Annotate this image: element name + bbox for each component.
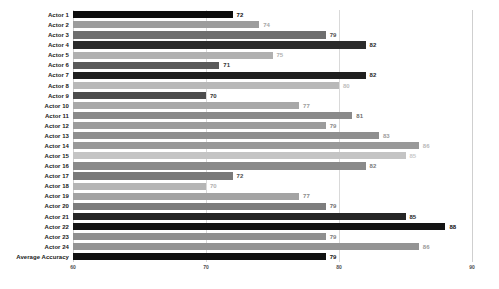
bar[interactable] — [73, 11, 233, 18]
category-label: Actor 15 — [0, 151, 69, 161]
bar-row: Actor 1383 — [0, 131, 499, 141]
bar-track: 85 — [73, 151, 499, 161]
x-tick-label: 90 — [469, 264, 475, 270]
bar-row: Actor 2079 — [0, 201, 499, 211]
bar-track: 77 — [73, 101, 499, 111]
bar-track: 79 — [73, 252, 499, 262]
x-tick-label: 70 — [203, 264, 209, 270]
bar-value-label: 81 — [356, 111, 363, 121]
bar[interactable] — [73, 152, 406, 159]
bar-track: 85 — [73, 212, 499, 222]
category-label: Actor 19 — [0, 191, 69, 201]
bar[interactable] — [73, 213, 406, 220]
bar-row: Actor 1977 — [0, 191, 499, 201]
bar[interactable] — [73, 203, 326, 210]
bar-value-label: 85 — [410, 151, 417, 161]
x-axis: 60708090 — [73, 264, 472, 278]
bar[interactable] — [73, 52, 273, 59]
category-label: Actor 3 — [0, 30, 69, 40]
bar[interactable] — [73, 21, 259, 28]
category-label: Actor 23 — [0, 232, 69, 242]
bar[interactable] — [73, 172, 233, 179]
bar[interactable] — [73, 62, 219, 69]
category-label: Actor 20 — [0, 201, 69, 211]
bar-value-label: 77 — [303, 191, 310, 201]
bar[interactable] — [73, 31, 326, 38]
category-label: Actor 7 — [0, 70, 69, 80]
bar-row: Actor 2379 — [0, 232, 499, 242]
bar-row: Actor 2185 — [0, 212, 499, 222]
category-label: Actor 18 — [0, 181, 69, 191]
category-label: Actor 16 — [0, 161, 69, 171]
bar-row: Actor 2288 — [0, 222, 499, 232]
category-label: Actor 8 — [0, 81, 69, 91]
bar[interactable] — [73, 233, 326, 240]
bar[interactable] — [73, 142, 419, 149]
bar-track: 83 — [73, 131, 499, 141]
bar-row: Actor 1279 — [0, 121, 499, 131]
bar-track: 88 — [73, 222, 499, 232]
bar-value-label: 86 — [423, 141, 430, 151]
bar-row: Actor 575 — [0, 50, 499, 60]
bar-track: 79 — [73, 201, 499, 211]
bar-track: 70 — [73, 181, 499, 191]
bar-value-label: 79 — [330, 232, 337, 242]
category-label: Actor 14 — [0, 141, 69, 151]
bar-value-label: 86 — [423, 242, 430, 252]
bar-row: Actor 1585 — [0, 151, 499, 161]
bar[interactable] — [73, 183, 206, 190]
bar[interactable] — [73, 72, 366, 79]
bar[interactable] — [73, 92, 206, 99]
bar[interactable] — [73, 82, 339, 89]
bar-track: 75 — [73, 50, 499, 60]
bar-row: Actor 1682 — [0, 161, 499, 171]
bar-value-label: 79 — [330, 252, 337, 262]
bar-track: 72 — [73, 10, 499, 20]
bar[interactable] — [73, 223, 445, 230]
bar-row: Actor 1077 — [0, 101, 499, 111]
category-label: Actor 5 — [0, 50, 69, 60]
bar-row: Actor 482 — [0, 40, 499, 50]
bar-track: 77 — [73, 191, 499, 201]
category-label: Actor 11 — [0, 111, 69, 121]
bar-track: 82 — [73, 161, 499, 171]
bar-value-label: 82 — [370, 40, 377, 50]
bar-value-label: 72 — [237, 171, 244, 181]
bar-track: 72 — [73, 171, 499, 181]
category-label: Actor 2 — [0, 20, 69, 30]
bar[interactable] — [73, 193, 299, 200]
bar-row: Actor 274 — [0, 20, 499, 30]
bar-value-label: 82 — [370, 161, 377, 171]
bar-value-label: 70 — [210, 181, 217, 191]
bar-value-label: 71 — [223, 60, 230, 70]
bar[interactable] — [73, 243, 419, 250]
category-label: Actor 10 — [0, 101, 69, 111]
bar-track: 79 — [73, 121, 499, 131]
category-label: Actor 4 — [0, 40, 69, 50]
category-label: Average Accuracy — [0, 252, 69, 262]
bar-row: Actor 379 — [0, 30, 499, 40]
bar-track: 80 — [73, 81, 499, 91]
bar-row: Actor 1772 — [0, 171, 499, 181]
bar[interactable] — [73, 102, 299, 109]
bar-track: 74 — [73, 20, 499, 30]
x-tick-label: 80 — [336, 264, 342, 270]
category-label: Actor 13 — [0, 131, 69, 141]
bar[interactable] — [73, 112, 352, 119]
bar-value-label: 85 — [410, 212, 417, 222]
bar[interactable] — [73, 132, 379, 139]
category-label: Actor 17 — [0, 171, 69, 181]
bar-track: 86 — [73, 242, 499, 252]
bar-value-label: 83 — [383, 131, 390, 141]
category-label: Actor 22 — [0, 222, 69, 232]
bar-value-label: 72 — [237, 10, 244, 20]
bar[interactable] — [73, 162, 366, 169]
bar[interactable] — [73, 253, 326, 260]
bar-row: Actor 1486 — [0, 141, 499, 151]
bar[interactable] — [73, 122, 326, 129]
bar[interactable] — [73, 41, 366, 48]
bar-rows-container: Actor 172Actor 274Actor 379Actor 482Acto… — [0, 10, 499, 262]
bar-value-label: 79 — [330, 121, 337, 131]
bar-value-label: 80 — [343, 81, 350, 91]
bar-row: Actor 172 — [0, 10, 499, 20]
